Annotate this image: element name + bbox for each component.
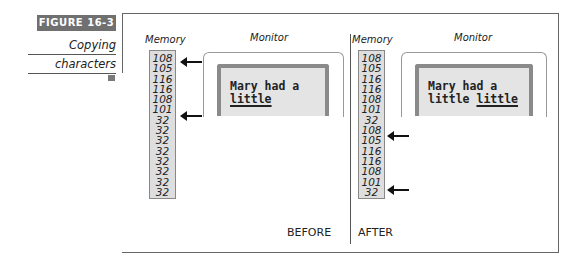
figure-label: FIGURE 16-3 (37, 15, 116, 31)
caption-line-1: Copying (69, 38, 116, 52)
before-monitor: Mary had a little (203, 52, 344, 117)
after-memory-heading: Memory (352, 34, 393, 45)
screen-line-2-text: little (428, 92, 476, 106)
before-after-divider (350, 34, 351, 244)
memory-cell: 32 (150, 187, 175, 197)
square-marker-icon (108, 75, 115, 81)
before-screen: Mary had a little (217, 64, 329, 116)
memory-cell: 32 (359, 187, 384, 197)
left-arrow-icon (186, 115, 202, 117)
caption-rule (28, 73, 116, 74)
left-arrow-icon (393, 135, 409, 137)
caption-rule (28, 54, 116, 55)
after-screen: Mary had a little little (415, 64, 533, 116)
after-memory-column: 108 105 116 116 108 101 32 108 105 116 1… (358, 50, 385, 199)
figure-frame-left-edge (122, 13, 123, 73)
before-memory-heading: Memory (145, 34, 186, 45)
after-label: AFTER (358, 226, 393, 239)
before-memory-column: 108 105 116 116 108 101 32 32 32 32 32 3… (149, 50, 176, 199)
left-arrow-icon (393, 189, 409, 191)
screen-line-2-underlined: little (230, 92, 272, 106)
screen-line-2-underlined: little (476, 92, 518, 106)
after-monitor-heading: Monitor (454, 32, 492, 43)
before-monitor-heading: Monitor (250, 32, 288, 43)
left-arrow-icon (186, 61, 202, 63)
after-monitor: Mary had a little little (401, 52, 547, 117)
before-label: BEFORE (287, 226, 331, 239)
figure-frame (122, 13, 559, 253)
caption-line-2: characters (55, 57, 116, 71)
